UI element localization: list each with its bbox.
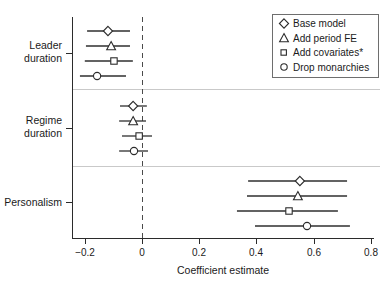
legend-marker-square-icon bbox=[281, 50, 286, 55]
estimate-row bbox=[248, 176, 347, 185]
x-axis-tick-labels: −0.2 0 0.2 0.4 0.6 0.8 bbox=[75, 247, 378, 258]
x-tick-label-4: 0.6 bbox=[307, 247, 321, 258]
estimate-row bbox=[255, 222, 350, 229]
point-estimate-marker-square bbox=[111, 58, 117, 64]
group-separators bbox=[72, 89, 380, 166]
category-label-personalism: Personalism bbox=[4, 196, 62, 208]
legend-item-label: Drop monarchies bbox=[293, 62, 369, 73]
estimate-row bbox=[80, 72, 126, 79]
plot-canvas: −0.2 0 0.2 0.4 0.6 0.8 Coefficient estim… bbox=[0, 0, 386, 282]
point-estimate-marker-diamond bbox=[103, 26, 112, 35]
legend-marker-circle-icon bbox=[281, 64, 287, 70]
x-tick-label-0: −0.2 bbox=[75, 247, 95, 258]
y-axis-category-labels: Leader duration Regime duration Personal… bbox=[4, 39, 62, 208]
point-estimate-marker-circle bbox=[303, 222, 310, 229]
estimate-row bbox=[86, 42, 130, 50]
point-estimate-marker-diamond bbox=[129, 101, 138, 110]
x-axis-ticks bbox=[85, 238, 371, 244]
category-label-leader-line2: duration bbox=[24, 52, 62, 64]
estimate-row bbox=[120, 101, 147, 110]
point-estimate-marker-diamond bbox=[295, 176, 304, 185]
point-estimate-marker-circle bbox=[130, 147, 137, 154]
x-tick-label-5: 0.8 bbox=[364, 247, 378, 258]
x-tick-label-1: 0 bbox=[139, 247, 145, 258]
x-tick-label-2: 0.2 bbox=[192, 247, 206, 258]
estimate-row bbox=[237, 208, 338, 214]
x-axis-title: Coefficient estimate bbox=[177, 264, 269, 276]
y-axis-ticks bbox=[66, 53, 72, 202]
legend-item: Add covariates* bbox=[281, 47, 363, 58]
x-tick-label-3: 0.4 bbox=[249, 247, 263, 258]
category-label-leader-line1: Leader bbox=[29, 39, 62, 51]
point-estimate-marker-circle bbox=[93, 72, 100, 79]
estimate-row bbox=[119, 147, 148, 154]
estimate-row bbox=[122, 133, 152, 139]
estimate-row bbox=[247, 192, 347, 200]
legend-item-label: Add covariates* bbox=[293, 47, 363, 58]
estimate-row bbox=[85, 58, 133, 64]
coefficient-plot-figure: −0.2 0 0.2 0.4 0.6 0.8 Coefficient estim… bbox=[0, 0, 386, 282]
legend: Base modelAdd period FEAdd covariates*Dr… bbox=[272, 14, 378, 77]
category-label-regime-line1: Regime bbox=[26, 114, 62, 126]
category-label-regime-line2: duration bbox=[24, 127, 62, 139]
legend-item-label: Add period FE bbox=[293, 33, 357, 44]
legend-item: Drop monarchies bbox=[281, 62, 369, 73]
point-estimate-marker-square bbox=[286, 208, 292, 214]
point-estimate-marker-square bbox=[136, 133, 142, 139]
legend-item-label: Base model bbox=[293, 18, 346, 29]
estimate-row bbox=[87, 26, 130, 35]
